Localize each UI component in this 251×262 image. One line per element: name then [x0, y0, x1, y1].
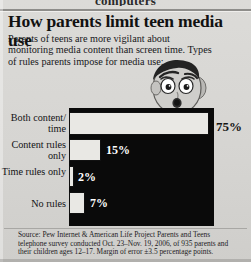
page-edge-left [0, 0, 3, 262]
chart-plot-area: 15% 2% 7% [69, 108, 214, 226]
infographic-page: computers How parents limit teen media u… [0, 0, 251, 262]
bar-value-both-content-time: 75% [216, 121, 242, 133]
bar-time-rules-only [69, 166, 74, 187]
bar-no-rules [69, 192, 85, 214]
source-divider-rule [4, 228, 247, 229]
source-note: Source: Pew Internet & American Life Pro… [18, 231, 240, 257]
cropped-headline-above: computers [0, 0, 251, 6]
cartoon-boy-surprised-face-icon [147, 54, 209, 116]
category-label-content-rules-only: Content rules only [0, 140, 66, 161]
category-label-time-rules-only: Time rules only [0, 167, 66, 178]
bar-content-rules-only [69, 139, 101, 161]
bar-both-content-time [69, 112, 209, 135]
bar-value-no-rules: 7% [90, 197, 108, 209]
bar-value-time-rules-only: 2% [78, 171, 96, 183]
category-label-no-rules: No rules [0, 199, 66, 210]
bar-value-content-rules-only: 15% [106, 144, 130, 156]
category-label-both-content-time: Both content/ time [0, 113, 66, 134]
